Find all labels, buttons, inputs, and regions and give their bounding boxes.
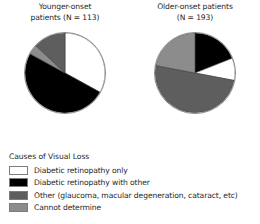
panel-title-line2: patients (N = 113) [0,13,130,24]
pie-younger-onset [24,32,106,114]
panel-title-line2: (N = 193) [130,13,260,24]
pie-wrap-younger-onset [24,32,106,114]
pie-svg-younger-onset [25,33,105,113]
legend-label-dr-only: Diabetic retinopathy only [34,166,128,175]
pie-panels: Younger-onset patients (N = 113) Older-o… [0,0,260,150]
legend-item-dr-with-other: Diabetic retinopathy with other [8,177,256,190]
panel-younger-onset: Younger-onset patients (N = 113) [0,0,130,150]
pie-wrap-older-onset [154,32,236,114]
legend-label-cannot-determine: Cannot determine [34,203,101,212]
panel-title-younger-onset: Younger-onset patients (N = 113) [0,2,130,23]
panel-older-onset: Older-onset patients (N = 193) [130,0,260,150]
legend-swatch-dr-with-other [9,178,28,187]
legend-swatch-cannot-determine [9,203,28,212]
legend-swatch-dr-only [9,166,28,175]
legend-label-other: Other (glaucoma, macular degeneration, c… [34,191,238,200]
legend: Causes of Visual Loss Diabetic retinopat… [8,152,256,214]
pie-svg-older-onset [155,33,235,113]
legend-title: Causes of Visual Loss [9,152,256,161]
legend-item-cannot-determine: Cannot determine [8,202,256,215]
legend-item-other: Other (glaucoma, macular degeneration, c… [8,189,256,202]
panel-title-line1: Older-onset patients [130,2,260,13]
legend-swatch-other [9,191,28,200]
panel-title-line1: Younger-onset [0,2,130,13]
pie-chart-figure: Younger-onset patients (N = 113) Older-o… [0,0,260,224]
panel-title-older-onset: Older-onset patients (N = 193) [130,2,260,23]
legend-label-dr-with-other: Diabetic retinopathy with other [34,178,150,187]
pie-older-onset [154,32,236,114]
legend-item-dr-only: Diabetic retinopathy only [8,164,256,177]
